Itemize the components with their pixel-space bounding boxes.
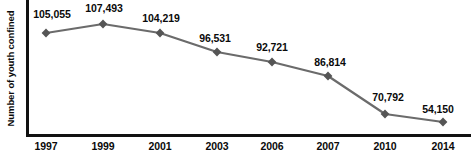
data-point-value-label: 54,150: [422, 103, 454, 115]
data-point-value-label: 70,792: [372, 91, 404, 103]
marker-group: [42, 20, 448, 127]
x-axis-tick-label: 2001: [149, 140, 172, 152]
data-point-value-label: 105,055: [33, 8, 70, 20]
data-point-value-label: 92,721: [256, 41, 288, 53]
x-axis-tick-label: 2006: [261, 140, 284, 152]
x-axis-tick-label: 1997: [35, 140, 58, 152]
data-point-marker: [439, 118, 448, 127]
series-line: [46, 24, 443, 122]
x-axis-tick-label: 2010: [374, 140, 397, 152]
data-point-value-label: 107,493: [85, 2, 122, 14]
data-point-value-label: 96,531: [199, 32, 231, 44]
data-point-marker: [213, 48, 222, 57]
x-axis-tick-label: 1999: [92, 140, 115, 152]
x-axis-tick-label: 2007: [317, 140, 340, 152]
x-axis-tick-label: 2003: [206, 140, 229, 152]
data-point-marker: [156, 29, 165, 38]
data-point-marker: [42, 29, 51, 38]
line-chart: Number of youth confined 105,055107,4931…: [0, 0, 471, 167]
data-point-marker: [99, 20, 108, 29]
x-axis-tick-label: 2014: [432, 140, 455, 152]
data-point-value-label: 86,814: [314, 56, 346, 68]
data-point-value-label: 104,219: [142, 12, 179, 24]
data-point-marker: [268, 58, 277, 67]
plot-area: [0, 0, 471, 167]
